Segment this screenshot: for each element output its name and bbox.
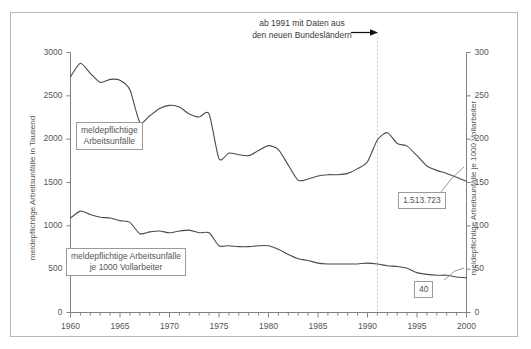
series-lines-group — [71, 63, 467, 278]
series-label-accidents-line2: Arbeitsunfälle — [81, 136, 138, 147]
chart-canvas — [0, 0, 531, 349]
x-tick-label-1960: 1960 — [49, 321, 93, 331]
x-tick-label-1980: 1980 — [247, 321, 291, 331]
value-callout-accidents: 1.513.723 — [398, 192, 446, 209]
y-tick-label-right-0: 0 — [475, 307, 515, 317]
annotation-new-states-line2: den neuen Bundesländern — [238, 29, 366, 41]
y-tick-label-right-250: 250 — [475, 90, 515, 100]
annotation-new-states-line1: ab 1991 mit Daten aus — [238, 17, 366, 29]
series-label-rate: meldepflichtige Arbeitsunfälle je 1000 V… — [66, 248, 186, 276]
series-label-accidents-line1: meldepflichtige — [81, 125, 138, 136]
x-tick-label-1975: 1975 — [197, 321, 241, 331]
y-tick-label-right-150: 150 — [475, 177, 515, 187]
series-label-rate-line1: meldepflichtige Arbeitsunfälle — [71, 251, 181, 262]
leader-line-accidents — [441, 167, 464, 192]
leader-line-rate — [444, 268, 464, 280]
y-tick-label-left-0: 0 — [23, 307, 63, 317]
x-tick-label-1970: 1970 — [148, 321, 192, 331]
value-callout-rate: 40 — [414, 281, 433, 298]
y-tick-label-right-300: 300 — [475, 47, 515, 57]
x-tick-label-1990: 1990 — [346, 321, 390, 331]
y-tick-label-left-2000: 2000 — [23, 133, 63, 143]
y-tick-label-right-50: 50 — [475, 263, 515, 273]
series-label-rate-line2: je 1000 Vollarbeiter — [71, 262, 181, 273]
y-tick-label-right-200: 200 — [475, 133, 515, 143]
x-tick-label-1985: 1985 — [296, 321, 340, 331]
callout-leader-lines — [441, 167, 464, 280]
chart-figure: meldepflichtige Arbeitsunfälle in Tausen… — [0, 0, 531, 349]
y-axis-left-title: meldepflichtige Arbeitsunfälle in Tausen… — [28, 88, 37, 288]
y-tick-label-right-100: 100 — [475, 220, 515, 230]
y-tick-label-left-2500: 2500 — [23, 90, 63, 100]
x-tick-label-1965: 1965 — [98, 321, 142, 331]
y-tick-label-left-500: 500 — [23, 263, 63, 273]
x-tick-label-2000: 2000 — [445, 321, 489, 331]
axes-group — [67, 53, 471, 318]
annotation-arrow-head — [370, 29, 378, 36]
y-tick-label-left-3000: 3000 — [23, 47, 63, 57]
x-tick-label-1995: 1995 — [395, 321, 439, 331]
y-tick-label-left-1000: 1000 — [23, 220, 63, 230]
y-axis-right-title: meldepflichtige Arbeitsunfälle je 1000 V… — [469, 88, 478, 288]
annotation-new-states: ab 1991 mit Daten aus den neuen Bundeslä… — [238, 17, 366, 42]
series-label-accidents: meldepflichtige Arbeitsunfälle — [76, 122, 143, 150]
y-tick-label-left-1500: 1500 — [23, 177, 63, 187]
